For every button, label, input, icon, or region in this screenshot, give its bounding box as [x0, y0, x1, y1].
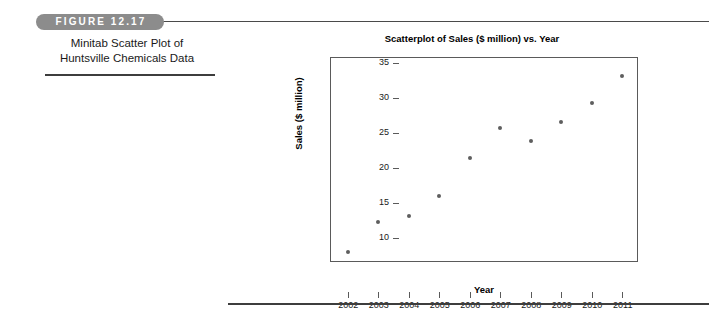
- x-axis-title: Year: [330, 284, 638, 295]
- x-axis-tick-label: 2010: [582, 300, 602, 310]
- y-axis-tick: 10: [393, 238, 399, 239]
- scatter-point: [468, 156, 472, 160]
- y-axis-tick: 35: [393, 63, 399, 64]
- x-axis-tick-label: 2007: [491, 300, 511, 310]
- y-axis-tick-label: 25: [379, 127, 393, 137]
- figure-number-badge: FIGURE 12.17: [36, 14, 164, 30]
- x-axis-tick-label: 2004: [399, 300, 419, 310]
- y-axis-tick-label: 35: [379, 57, 393, 67]
- y-axis-tick-label: 10: [379, 232, 393, 242]
- y-axis-tick: 25: [393, 133, 399, 134]
- x-axis-tick-label: 2002: [338, 300, 358, 310]
- y-axis-tick-label: 20: [379, 162, 393, 172]
- figure-caption: Minitab Scatter Plot of Huntsville Chemi…: [22, 36, 232, 66]
- plot-area: 3530252015102002200320042005200620072008…: [330, 57, 638, 262]
- scatter-point: [529, 139, 533, 143]
- x-axis-tick-label: 2003: [369, 300, 389, 310]
- scatter-point: [376, 220, 380, 224]
- chart-title: Scatterplot of Sales ($ million) vs. Yea…: [262, 33, 662, 44]
- y-axis-tick-label: 15: [379, 197, 393, 207]
- y-axis-tick: 15: [393, 203, 399, 204]
- figure-caption-line-2: Huntsville Chemicals Data: [22, 51, 232, 66]
- x-axis-tick-label: 2006: [460, 300, 480, 310]
- scatter-point: [590, 101, 594, 105]
- scatter-point: [407, 214, 411, 218]
- y-axis-tick-label: 30: [379, 92, 393, 102]
- scatter-point: [437, 194, 441, 198]
- x-axis-tick-label: 2005: [430, 300, 450, 310]
- figure-caption-line-1: Minitab Scatter Plot of: [22, 36, 232, 51]
- caption-underline-rule: [45, 74, 215, 76]
- scatter-chart: Scatterplot of Sales ($ million) vs. Yea…: [262, 28, 662, 298]
- x-axis-tick-label: 2009: [552, 300, 572, 310]
- x-axis-tick-label: 2011: [613, 300, 632, 310]
- top-divider-rule: [96, 21, 709, 22]
- bottom-divider-rule: [228, 303, 709, 305]
- scatter-point: [346, 250, 350, 254]
- y-axis-title: Sales ($ million): [293, 54, 304, 174]
- x-axis-tick-label: 2008: [521, 300, 541, 310]
- scatter-point: [559, 120, 563, 124]
- scatter-point: [620, 74, 624, 78]
- scatter-point: [498, 126, 502, 130]
- y-axis-tick: 30: [393, 98, 399, 99]
- y-axis-tick: 20: [393, 168, 399, 169]
